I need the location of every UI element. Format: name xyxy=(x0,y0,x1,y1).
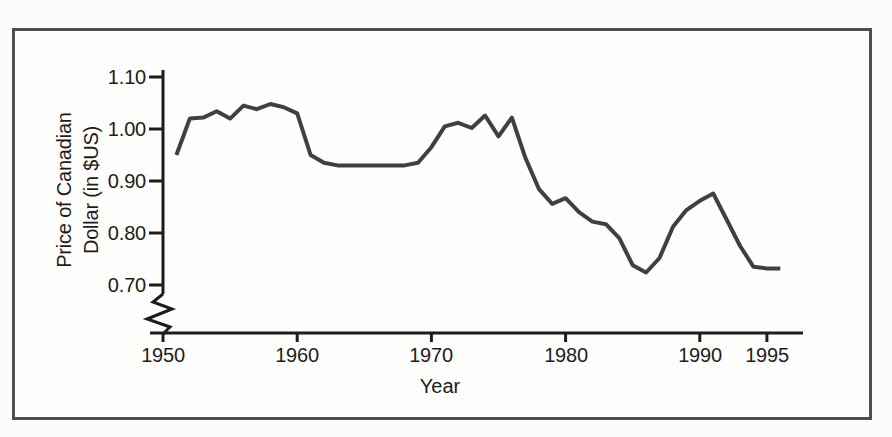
y-axis-title-line1: Price of Canadian xyxy=(51,40,78,340)
y-axis-title-line2: Dollar (in $US) xyxy=(78,40,105,340)
x-tick-label: 1995 xyxy=(731,344,803,366)
x-tick-label: 1980 xyxy=(530,344,602,366)
x-tick-label: 1990 xyxy=(664,344,736,366)
screenshot-root: 1.10 1.00 0.90 0.80 0.70 1950 1960 1970 … xyxy=(0,0,892,437)
x-tick-label: 1950 xyxy=(127,344,199,366)
y-axis-break-zigzag xyxy=(147,294,172,334)
price-line xyxy=(176,104,780,273)
y-axis-title: Price of Canadian Dollar (in $US) xyxy=(51,40,105,340)
x-tick-label: 1960 xyxy=(261,344,333,366)
x-axis-title: Year xyxy=(402,375,478,398)
x-tick-label: 1970 xyxy=(395,344,467,366)
